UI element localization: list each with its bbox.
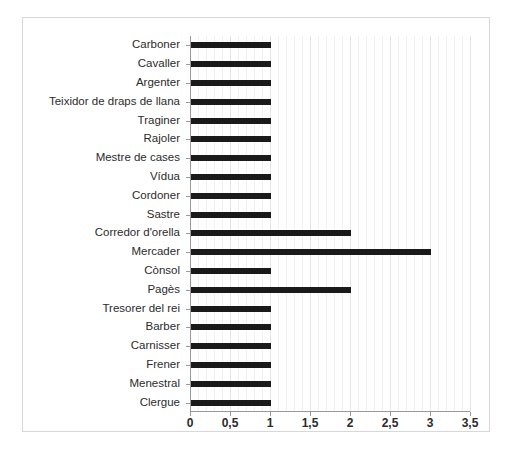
y-axis-label: Clergue bbox=[140, 396, 180, 409]
bar bbox=[191, 324, 271, 330]
gridline-major bbox=[470, 36, 471, 412]
bar bbox=[191, 136, 271, 142]
y-axis-tick bbox=[186, 271, 190, 272]
y-axis-label: Sastre bbox=[147, 208, 180, 221]
y-axis-tick bbox=[186, 139, 190, 140]
bar bbox=[191, 400, 271, 406]
bar bbox=[191, 42, 271, 48]
y-axis-tick bbox=[186, 290, 190, 291]
y-axis-tick bbox=[186, 177, 190, 178]
y-axis-tick bbox=[186, 327, 190, 328]
bar bbox=[191, 306, 271, 312]
y-axis-label: Traginer bbox=[138, 114, 180, 127]
y-axis-tick bbox=[186, 309, 190, 310]
bar bbox=[191, 362, 271, 368]
y-axis-tick bbox=[186, 365, 190, 366]
y-axis-tick bbox=[186, 196, 190, 197]
x-axis-label: 3 bbox=[427, 416, 434, 430]
y-axis-tick bbox=[186, 45, 190, 46]
y-axis-tick bbox=[186, 233, 190, 234]
x-axis-label: 0 bbox=[187, 416, 194, 430]
y-axis-tick bbox=[186, 64, 190, 65]
y-axis-line bbox=[190, 36, 191, 412]
y-axis-label: Cònsol bbox=[144, 264, 180, 277]
y-axis-tick bbox=[186, 158, 190, 159]
y-axis-tick bbox=[186, 384, 190, 385]
chart-figure-frame: CarbonerCavallerArgenterTeixidor de drap… bbox=[22, 17, 490, 432]
x-axis-tick-labels: 00,511,522,533,5 bbox=[190, 416, 470, 434]
bar bbox=[191, 118, 271, 124]
x-axis-label: 1 bbox=[267, 416, 274, 430]
x-axis-label: 3,5 bbox=[462, 416, 479, 430]
x-axis-label: 2 bbox=[347, 416, 354, 430]
x-axis-label: 1,5 bbox=[302, 416, 319, 430]
bar bbox=[191, 80, 271, 86]
y-axis-label: Argenter bbox=[136, 76, 180, 89]
bar bbox=[191, 343, 271, 349]
y-axis-label: Barber bbox=[145, 320, 180, 333]
bar bbox=[191, 230, 351, 236]
y-axis-label: Rajoler bbox=[144, 132, 180, 145]
bar-series bbox=[190, 36, 470, 412]
y-axis-label: Carboner bbox=[132, 38, 180, 51]
y-axis-tick bbox=[186, 403, 190, 404]
bar bbox=[191, 287, 351, 293]
plot-area bbox=[190, 36, 470, 412]
y-axis-tick bbox=[186, 121, 190, 122]
x-axis-line bbox=[190, 411, 470, 412]
bar bbox=[191, 155, 271, 161]
y-axis-tick bbox=[186, 215, 190, 216]
bar bbox=[191, 61, 271, 67]
y-axis-label: Cordoner bbox=[132, 189, 180, 202]
y-axis-tick bbox=[186, 346, 190, 347]
y-axis-label: Menestral bbox=[130, 377, 181, 390]
y-axis-label: Carnisser bbox=[131, 339, 180, 352]
y-axis-tick bbox=[186, 252, 190, 253]
bar bbox=[191, 174, 271, 180]
y-axis-label: Frener bbox=[146, 358, 180, 371]
y-axis-label: Teixidor de draps de llana bbox=[49, 95, 180, 108]
y-axis-label: Mestre de cases bbox=[96, 151, 180, 164]
bar bbox=[191, 381, 271, 387]
bar bbox=[191, 268, 271, 274]
y-axis-label: Corredor d'orella bbox=[95, 226, 180, 239]
x-axis-label: 0,5 bbox=[222, 416, 239, 430]
y-axis-tick bbox=[186, 83, 190, 84]
x-axis-label: 2,5 bbox=[382, 416, 399, 430]
bar bbox=[191, 249, 431, 255]
bar bbox=[191, 193, 271, 199]
y-axis-label: Cavaller bbox=[138, 57, 180, 70]
bar bbox=[191, 212, 271, 218]
y-axis-label: Tresorer del rei bbox=[102, 302, 180, 315]
y-axis-tick bbox=[186, 102, 190, 103]
y-axis-label: Pagès bbox=[147, 283, 180, 296]
y-axis-label: Mercader bbox=[131, 245, 180, 258]
bar bbox=[191, 99, 271, 105]
y-axis-label: Vídua bbox=[150, 170, 180, 183]
y-axis-category-labels: CarbonerCavallerArgenterTeixidor de drap… bbox=[23, 36, 186, 412]
